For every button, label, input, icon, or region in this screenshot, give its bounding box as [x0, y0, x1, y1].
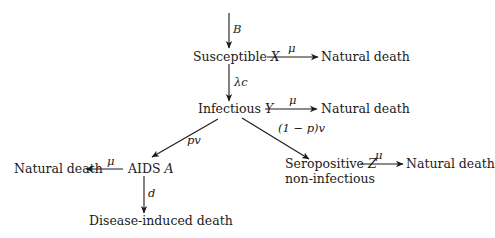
- node-susceptible: Susceptible X: [193, 51, 280, 64]
- aids-progression-label: pv: [187, 135, 201, 147]
- node-seropositive: Seropositive Z non-infectious: [285, 158, 377, 185]
- seroconversion-label: (1 − p)v: [278, 123, 325, 135]
- disease-induced-death-label: Disease-induced death: [89, 213, 233, 228]
- disease-mortality-label: d: [148, 188, 155, 200]
- natural-death-a-label: Natural death: [14, 161, 103, 176]
- node-susceptible-var: X: [271, 49, 280, 64]
- node-natural-death-a: Natural death: [14, 163, 103, 176]
- node-natural-death-z: Natural death: [406, 158, 495, 171]
- node-disease-induced-death: Disease-induced death: [89, 215, 233, 228]
- natural-death-z-label: Natural death: [406, 156, 495, 171]
- node-infectious-label: Infectious: [198, 101, 261, 116]
- susceptible-mortality-label: μ: [288, 43, 295, 55]
- node-susceptible-label: Susceptible: [193, 49, 267, 64]
- node-infectious-var: Y: [265, 101, 273, 116]
- node-seropositive-var: Z: [368, 156, 377, 171]
- node-aids: AIDS A: [128, 163, 174, 176]
- node-natural-death-x: Natural death: [321, 51, 410, 64]
- node-seropositive-label: Seropositive: [285, 156, 364, 171]
- node-natural-death-y: Natural death: [321, 103, 410, 116]
- to-aids-arrow: [152, 119, 218, 157]
- infection-rate-label: λc: [234, 77, 248, 89]
- node-aids-var: A: [165, 161, 174, 176]
- natural-death-y-label: Natural death: [321, 101, 410, 116]
- node-infectious: Infectious Y: [198, 103, 273, 116]
- birth-rate-label: B: [233, 24, 241, 36]
- aids-mortality-label: μ: [107, 156, 114, 168]
- node-seropositive-sublabel: non-infectious: [285, 173, 377, 186]
- natural-death-x-label: Natural death: [321, 49, 410, 64]
- node-aids-label: AIDS: [128, 161, 161, 176]
- infectious-mortality-label: μ: [289, 95, 296, 107]
